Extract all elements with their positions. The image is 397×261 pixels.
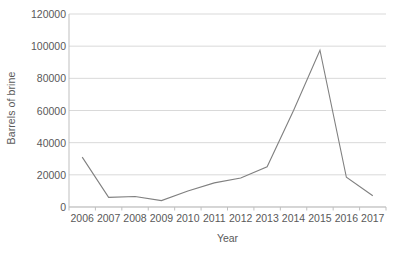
x-axis-tick-label: 2012 [229,212,252,225]
x-axis-tick-labels: 2006200720082009201020112012201320142015… [69,212,386,228]
y-axis-tick-label: 20000 [18,170,66,181]
plot-svg [69,14,386,207]
x-axis-tick-label: 2006 [71,212,94,225]
data-series-line [82,50,373,200]
x-axis-tick-label: 2013 [255,212,278,225]
y-axis-title-label: Barrels of brine [5,71,17,144]
x-axis-title: Year [69,232,386,244]
y-axis-tick-label: 60000 [18,105,66,116]
y-axis-tick-label: 100000 [18,41,66,52]
x-axis-ticks [69,207,386,211]
y-axis-tick-label: 120000 [18,9,66,20]
x-axis-tick-label: 2014 [282,212,305,225]
x-axis-tick-label: 2009 [150,212,173,225]
x-axis-tick-label: 2011 [203,212,226,225]
x-axis-title-label: Year [217,232,238,244]
line-chart: Barrels of brine 02000040000600008000010… [0,0,397,261]
x-axis-tick-label: 2015 [308,212,331,225]
gridlines [69,14,386,207]
x-axis-tick-label: 2017 [361,212,384,225]
x-axis-tick-label: 2008 [123,212,146,225]
x-axis-tick-label: 2007 [97,212,120,225]
y-axis-tick-label: 40000 [18,137,66,148]
y-axis-tick-label: 0 [18,202,66,213]
y-axis-tick-labels: 020000400006000080000100000120000 [18,0,66,215]
x-axis-tick-label: 2016 [335,212,358,225]
y-axis-tick-label: 80000 [18,73,66,84]
x-axis-tick-label: 2010 [176,212,199,225]
plot-area [69,14,386,207]
